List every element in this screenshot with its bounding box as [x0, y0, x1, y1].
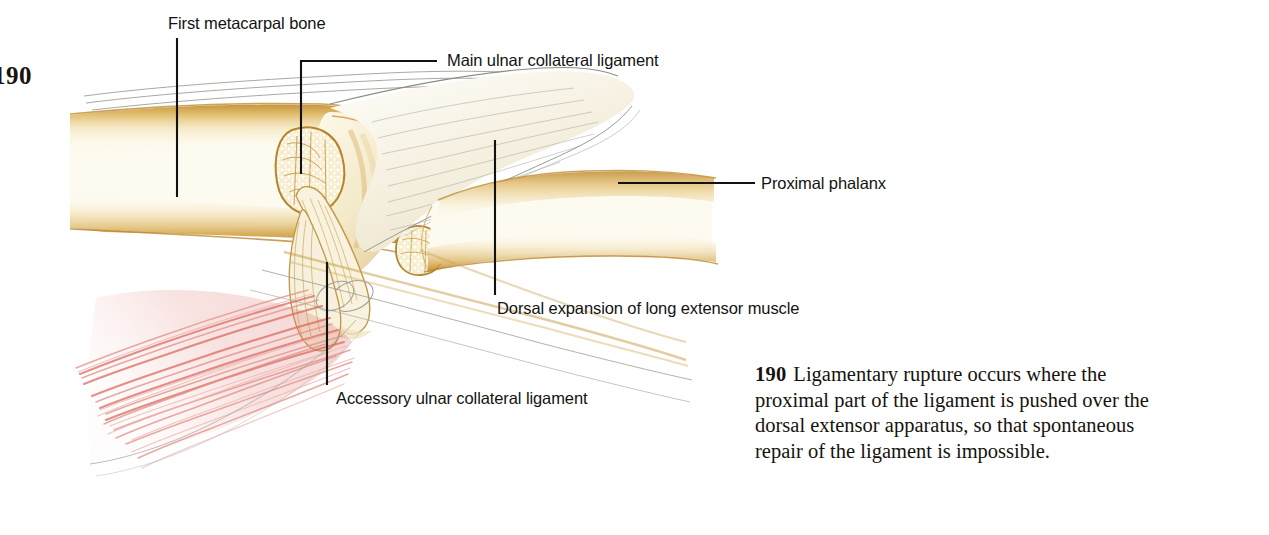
caption-text: Ligamentary rupture occurs where the pro… — [755, 363, 1149, 462]
caption-number: 190 — [755, 363, 786, 385]
callout-label-accessory-ulnar-collateral-ligament: Accessory ulnar collateral ligament — [336, 390, 587, 407]
figure-caption: 190Ligamentary rupture occurs where the … — [755, 362, 1185, 464]
muscle-belly — [76, 290, 362, 476]
callout-label-proximal-phalanx: Proximal phalanx — [761, 175, 886, 192]
figure-page: 190 — [0, 0, 1269, 535]
callout-label-first-metacarpal-bone: First metacarpal bone — [168, 15, 325, 32]
callout-label-main-ulnar-collateral-ligament: Main ulnar collateral ligament — [447, 52, 659, 69]
callout-label-dorsal-expansion: Dorsal expansion of long extensor muscle — [497, 300, 799, 317]
